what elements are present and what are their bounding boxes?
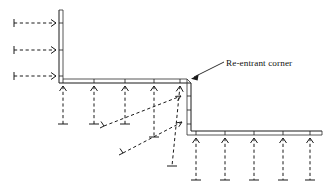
arrow-tail-bar xyxy=(100,122,104,129)
corner-label: Re-entrant corner xyxy=(226,58,292,68)
lower-surface-arrows xyxy=(191,138,315,180)
lower-arrow-2 xyxy=(220,138,230,180)
lower-arrow-4 xyxy=(278,138,288,180)
leader-arrow-head xyxy=(191,75,199,81)
upper-arrow-4 xyxy=(149,86,159,137)
wall-profile xyxy=(59,10,322,135)
incoming-left-arrows xyxy=(14,19,56,80)
arrow-shaft xyxy=(104,96,181,126)
reentrant-corner-notch xyxy=(187,79,191,83)
diagonal-arrow-1 xyxy=(100,96,181,128)
wall-inner-edge xyxy=(63,10,322,135)
upper-arrow-3 xyxy=(120,86,130,124)
incoming-arrow-2 xyxy=(14,46,56,54)
lower-arrow-1 xyxy=(191,138,201,180)
upper-arrow-2 xyxy=(89,86,99,124)
arrow-tail-bar xyxy=(119,149,123,156)
arrow-head xyxy=(176,122,182,127)
lower-arrow-3 xyxy=(249,138,259,180)
incoming-arrow-1 xyxy=(14,19,56,27)
wall-outer-edge xyxy=(59,10,322,131)
reentrant-corner-figure: Re-entrant corner xyxy=(0,0,335,191)
diagonal-corner-arrows xyxy=(100,96,182,155)
upper-arrow-1 xyxy=(58,86,68,124)
corner-annotation: Re-entrant corner xyxy=(191,58,292,80)
diagonal-arrow-2 xyxy=(119,122,182,155)
lower-arrow-5 xyxy=(305,138,315,180)
incoming-arrow-3 xyxy=(14,72,56,80)
diagram-canvas: Re-entrant corner xyxy=(0,0,335,191)
